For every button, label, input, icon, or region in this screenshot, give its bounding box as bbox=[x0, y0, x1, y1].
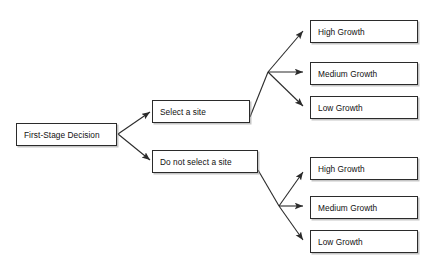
edge-root-to-select-a-site bbox=[118, 112, 150, 134]
node-label: High Growth bbox=[311, 27, 365, 37]
node-label: Medium Growth bbox=[311, 203, 377, 213]
edge-root-to-do-not-select-a-site bbox=[118, 134, 150, 160]
node-label: Do not select a site bbox=[153, 157, 232, 167]
edge-branch-two-high-growth bbox=[279, 172, 303, 206]
node-label: Medium Growth bbox=[311, 69, 377, 79]
edge-branch-one-high-growth bbox=[268, 31, 303, 72]
node-do-not-select-a-site[interactable]: Do not select a site bbox=[152, 150, 258, 173]
edge-select-a-site-to-branch-point bbox=[250, 72, 268, 117]
node-label: First-Stage Decision bbox=[17, 130, 100, 140]
node-branch-two-high-growth[interactable]: High Growth bbox=[310, 157, 418, 180]
node-label: Low Growth bbox=[311, 237, 363, 247]
node-label: High Growth bbox=[311, 164, 365, 174]
edge-do-not-select-a-site-to-branch-point bbox=[258, 170, 279, 206]
node-select-a-site[interactable]: Select a site bbox=[152, 100, 250, 123]
node-branch-two-medium-growth[interactable]: Medium Growth bbox=[310, 196, 418, 219]
edge-branch-two-low-growth bbox=[279, 206, 303, 240]
decision-tree-diagram: First-Stage Decision Select a site Do no… bbox=[0, 0, 434, 263]
node-branch-one-medium-growth[interactable]: Medium Growth bbox=[310, 62, 418, 85]
node-branch-one-high-growth[interactable]: High Growth bbox=[310, 20, 418, 43]
node-first-stage-decision[interactable]: First-Stage Decision bbox=[16, 123, 117, 146]
node-label: Select a site bbox=[153, 107, 206, 117]
node-branch-two-low-growth[interactable]: Low Growth bbox=[310, 230, 418, 253]
node-branch-one-low-growth[interactable]: Low Growth bbox=[310, 96, 418, 119]
node-label: Low Growth bbox=[311, 103, 363, 113]
edge-branch-one-low-growth bbox=[268, 72, 303, 106]
